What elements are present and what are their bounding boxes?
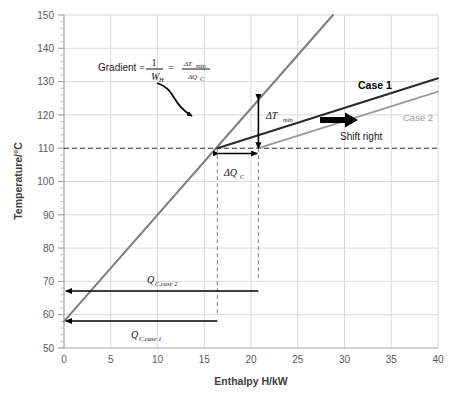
y-tick-150: 150 bbox=[37, 10, 54, 21]
delta-tmin-sub: min bbox=[283, 116, 293, 123]
chart-container: 150 140 130 120 110 100 90 80 70 60 50 0… bbox=[0, 0, 463, 400]
gradient-dt-sub: min bbox=[196, 62, 206, 69]
y-tick-90: 90 bbox=[43, 210, 55, 221]
x-tick-30: 30 bbox=[339, 354, 351, 365]
y-tick-70: 70 bbox=[43, 276, 55, 287]
x-tick-35: 35 bbox=[386, 354, 398, 365]
x-tick-0: 0 bbox=[61, 354, 67, 365]
y-axis-title: Temperature/°C bbox=[12, 142, 24, 220]
gradient-dt: ΔT bbox=[183, 60, 193, 68]
case-1-label: Case 1 bbox=[358, 79, 392, 91]
x-tick-15: 15 bbox=[199, 354, 211, 365]
gradient-equals-2: = bbox=[168, 62, 174, 73]
delta-tmin-main: ΔT bbox=[265, 110, 279, 121]
gradient-wh-sub: H bbox=[158, 76, 164, 83]
x-tick-25: 25 bbox=[292, 354, 304, 365]
x-tick-40: 40 bbox=[432, 354, 444, 365]
gradient-equals-1: = bbox=[139, 62, 145, 73]
y-tick-100: 100 bbox=[37, 176, 54, 187]
x-axis-title: Enthalpy H/kW bbox=[214, 375, 288, 387]
qc-case1-main: Q bbox=[131, 329, 139, 340]
y-tick-120: 120 bbox=[37, 110, 54, 121]
y-tick-140: 140 bbox=[37, 43, 54, 54]
gradient-numerator-one: 1 bbox=[152, 57, 157, 68]
y-axis-major-ticks bbox=[58, 15, 64, 348]
y-tick-50: 50 bbox=[43, 343, 55, 354]
gradient-label: Gradient bbox=[98, 62, 137, 73]
x-tick-5: 5 bbox=[108, 354, 114, 365]
x-axis-tick-labels: 0 5 10 15 20 25 30 35 40 bbox=[61, 354, 444, 365]
gradient-dq-sub: C bbox=[200, 75, 205, 82]
y-tick-80: 80 bbox=[43, 243, 55, 254]
delta-qc-sub: C bbox=[240, 173, 245, 180]
qc-case2-main: Q bbox=[147, 274, 155, 285]
y-tick-130: 130 bbox=[37, 76, 54, 87]
shift-right-label: Shift right bbox=[340, 131, 382, 142]
qc-case2-sub: C,case 2 bbox=[155, 280, 178, 287]
qc-case1-sub: C,case 1 bbox=[139, 335, 161, 342]
y-axis-tick-labels: 150 140 130 120 110 100 90 80 70 60 50 bbox=[37, 10, 54, 354]
delta-qc-main: ΔQ bbox=[223, 167, 238, 178]
gradient-dq: ΔQ bbox=[187, 73, 197, 81]
x-tick-10: 10 bbox=[152, 354, 164, 365]
x-tick-20: 20 bbox=[245, 354, 257, 365]
y-tick-110: 110 bbox=[38, 143, 54, 154]
y-tick-60: 60 bbox=[43, 309, 55, 320]
case-2-label: Case 2 bbox=[403, 112, 433, 123]
composite-curve-chart: 150 140 130 120 110 100 90 80 70 60 50 0… bbox=[0, 0, 463, 400]
